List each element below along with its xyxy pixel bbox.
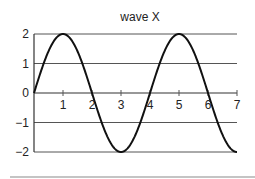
y-tick-label: 1: [22, 57, 29, 71]
x-tick-label: 1: [60, 98, 67, 112]
chart: wave X 210−1−2 1234567: [0, 0, 255, 179]
y-tick-labels: 210−1−2: [15, 27, 29, 159]
y-tick-label: −1: [15, 116, 29, 130]
y-tick-label: −2: [15, 145, 29, 159]
x-tick-label: 7: [234, 98, 241, 112]
y-tick-label: 2: [22, 27, 29, 41]
x-tick-label: 3: [118, 98, 125, 112]
x-tick-label: 5: [176, 98, 183, 112]
y-tick-label: 0: [22, 86, 29, 100]
chart-title: wave X: [119, 10, 159, 24]
